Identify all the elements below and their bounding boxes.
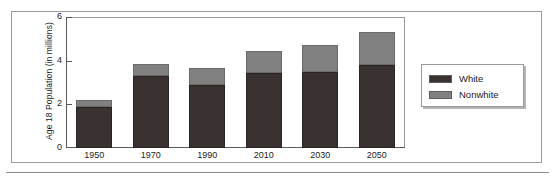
chart-legend: White Nonwhite <box>421 64 524 107</box>
bar-segment-nonwhite <box>246 51 282 73</box>
y-tick-0: 0 <box>44 148 66 149</box>
y-tick-2: 2 <box>44 104 66 105</box>
x-tick-label-1950: 1950 <box>74 151 114 160</box>
bar-segment-nonwhite <box>133 64 169 76</box>
bar-segment-white <box>246 73 282 148</box>
bar-segment-white <box>359 65 395 148</box>
footer-rule <box>6 172 549 173</box>
x-tick-label-2010: 2010 <box>244 151 284 160</box>
bar-2030 <box>302 45 338 148</box>
bar-segment-white <box>76 107 112 148</box>
y-axis-line <box>66 17 67 148</box>
bar-segment-nonwhite <box>302 45 338 71</box>
x-tick-label-2050: 2050 <box>357 151 397 160</box>
bar-1950 <box>76 100 112 148</box>
y-axis-title: Age 18 Population (in millions) <box>44 6 54 156</box>
legend-item-white: White <box>429 72 483 86</box>
bar-segment-white <box>133 76 169 148</box>
x-axis-line <box>66 147 405 148</box>
x-tick-label-1970: 1970 <box>131 151 171 160</box>
bar-segment-nonwhite <box>189 68 225 84</box>
y-tick-label: 6 <box>44 12 62 21</box>
legend-swatch-white <box>429 75 452 83</box>
legend-item-nonwhite: Nonwhite <box>429 88 499 102</box>
bar-segment-white <box>302 72 338 148</box>
legend-label-nonwhite: Nonwhite <box>459 90 499 100</box>
y-tick-6: 6 <box>44 17 66 18</box>
y-tick-label: 2 <box>44 99 62 108</box>
chart-figure: Age 18 Population (in millions) 0246 195… <box>0 0 555 181</box>
x-tick-label-2030: 2030 <box>300 151 340 160</box>
legend-swatch-nonwhite <box>429 91 452 99</box>
x-tick-label-1990: 1990 <box>187 151 227 160</box>
bar-segment-nonwhite <box>359 32 395 65</box>
plot-area-frame <box>66 17 405 148</box>
y-tick-mark <box>66 17 72 18</box>
y-tick-label: 4 <box>44 56 62 65</box>
y-tick-mark <box>66 104 72 105</box>
y-tick-4: 4 <box>44 61 66 62</box>
legend-label-white: White <box>459 74 483 84</box>
bar-1990 <box>189 68 225 148</box>
bar-2010 <box>246 51 282 148</box>
bar-1970 <box>133 64 169 148</box>
bar-2050 <box>359 32 395 148</box>
y-tick-label: 0 <box>44 143 62 152</box>
bar-segment-white <box>189 85 225 148</box>
y-tick-mark <box>66 61 72 62</box>
